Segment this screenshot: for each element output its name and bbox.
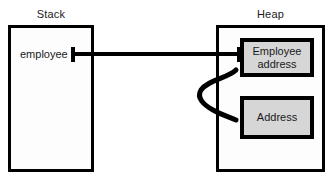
- heap-object-employee-address-label: Employee address: [253, 45, 302, 70]
- heap-object-address: Address: [240, 96, 314, 139]
- heap-region-label: Heap: [216, 8, 325, 20]
- stack-region-label: Stack: [8, 8, 94, 20]
- heap-object-employee-address: Employee address: [240, 38, 314, 77]
- stack-heap-diagram: Stack Heap employee Employee address Add…: [0, 0, 334, 179]
- stack-variable-employee: employee: [20, 48, 68, 60]
- heap-object-address-label: Address: [257, 111, 297, 124]
